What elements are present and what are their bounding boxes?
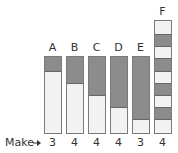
bar-e xyxy=(132,56,150,134)
bar-label-d: D xyxy=(110,42,127,54)
bar-b xyxy=(66,56,84,134)
bar-label-c: C xyxy=(88,42,105,54)
bar-label-e: E xyxy=(132,42,149,54)
bar-label-a: A xyxy=(44,42,61,54)
dark-segment xyxy=(45,56,61,72)
make-value-e: 3 xyxy=(132,137,149,149)
bar-label-f: F xyxy=(154,6,171,18)
make-row-label: Make xyxy=(5,137,34,149)
make-value-b: 4 xyxy=(66,137,83,149)
make-value-d: 4 xyxy=(110,137,127,149)
bar-a xyxy=(44,56,62,134)
dark-segment xyxy=(155,83,171,96)
dark-segment xyxy=(111,56,127,108)
make-value-c: 4 xyxy=(88,137,105,149)
bar-c xyxy=(88,56,106,134)
bar-f xyxy=(154,20,172,134)
dark-segment xyxy=(133,56,149,120)
dark-segment xyxy=(155,107,171,120)
dark-segment xyxy=(89,56,105,96)
dark-segment xyxy=(155,58,171,72)
bar-d xyxy=(110,56,128,134)
bar-label-b: B xyxy=(66,42,83,54)
dark-segment xyxy=(155,34,171,47)
dark-segment xyxy=(67,56,83,84)
make-value-f: 4 xyxy=(154,137,171,149)
make-value-a: 3 xyxy=(44,137,61,149)
arrow-right-icon xyxy=(33,140,41,146)
